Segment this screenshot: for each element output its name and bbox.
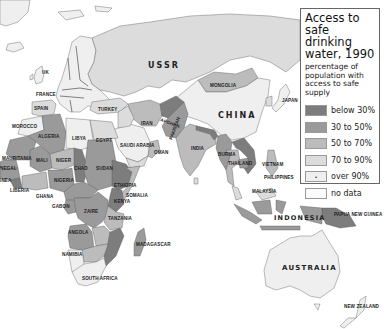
- label-guinea: INEA: [0, 178, 12, 183]
- legend-label: 30 to 50%: [331, 123, 372, 132]
- label-liberia: LIBERIA: [10, 188, 30, 193]
- tasmania: [314, 304, 320, 310]
- label-spain: SPAIN: [34, 106, 49, 111]
- label-france: FRANCE: [36, 92, 56, 97]
- label-india: INDIA: [191, 146, 205, 151]
- label-mali: MALI: [36, 158, 48, 163]
- label-egypt: EGYPT: [96, 138, 112, 143]
- label-gabon: GABON: [52, 204, 70, 209]
- greenland: [0, 0, 30, 26]
- label-australia: AUSTRALIA: [282, 264, 337, 272]
- papua-new-guinea: [322, 208, 356, 228]
- label-oman: OMAN: [154, 150, 169, 155]
- label-papua-new-guinea: PAPUA NEW GUINEA: [334, 212, 383, 217]
- legend: Access to safe drinking water, 1990 perc…: [300, 8, 380, 184]
- legend-title: Access to safe drinking water, 1990: [305, 12, 375, 60]
- label-china: CHINA: [218, 111, 256, 120]
- label-burma: BURMA: [218, 152, 236, 157]
- label-vietnam: VIETNAM: [262, 162, 283, 167]
- sudan: [84, 140, 116, 190]
- liberia: [10, 178, 22, 188]
- legend-item-over-90: • over 90%: [305, 168, 375, 185]
- legend-item-50-70: 50 to 70%: [305, 135, 375, 152]
- label-nigeria: NIGERIA: [54, 178, 74, 183]
- iceland: [6, 42, 24, 52]
- label-algeria: ALGERIA: [38, 134, 60, 139]
- label-ussr: USSR: [148, 61, 180, 70]
- label-south-africa: SOUTH AFRICA: [82, 276, 118, 281]
- label-madagascar: MADAGASCAR: [136, 242, 171, 247]
- arctic-islands: [58, 6, 112, 20]
- legend-swatch: [305, 105, 327, 116]
- legend-swatch: [305, 138, 327, 149]
- legend-subtitle: percentage of population with access to …: [305, 63, 375, 97]
- egypt: [90, 120, 118, 140]
- label-angola: ANGOLA: [68, 230, 89, 235]
- legend-label: no data: [331, 189, 362, 198]
- legend-swatch: [305, 122, 327, 133]
- label-indonesia: INDONESIA: [274, 214, 326, 222]
- label-thailand: THAILAND: [228, 161, 253, 166]
- label-kenya: KENYA: [114, 199, 131, 204]
- label-mongolia: MONGOLIA: [210, 83, 237, 88]
- legend-item-no-data: no data: [305, 185, 375, 202]
- label-somalia: SOMALIA: [126, 193, 148, 198]
- legend-label: over 90%: [331, 172, 369, 181]
- label-iran: IRAN: [141, 121, 153, 126]
- label-morocco: MOROCCO: [12, 124, 38, 129]
- label-namibia: NAMIBIA: [62, 252, 83, 257]
- legend-label: 50 to 70%: [331, 139, 372, 148]
- sri-lanka: [194, 178, 198, 184]
- label-mauritania: MAURITANIA: [2, 156, 32, 161]
- legend-swatch: [305, 188, 327, 199]
- label-philippines: PHILIPPINES: [264, 175, 294, 180]
- label-uk: UK: [42, 70, 49, 75]
- legend-label: 70 to 90%: [331, 156, 372, 165]
- label-ethiopia: ETHIOPIA: [114, 183, 137, 188]
- label-niger: NIGER: [56, 158, 72, 163]
- label-turkey: TURKEY: [98, 107, 118, 112]
- label-tanzania: TANZANIA: [108, 216, 133, 221]
- label-senegal: NEGAL: [0, 166, 17, 171]
- label-zaire: ZAIRE: [84, 209, 98, 214]
- label-malaysia: MALAYSIA: [252, 189, 277, 194]
- legend-item-below-30: below 30%: [305, 102, 375, 119]
- legend-item-30-50: 30 to 50%: [305, 119, 375, 136]
- uk: [30, 66, 44, 84]
- korea: [266, 96, 272, 106]
- legend-item-70-90: 70 to 90%: [305, 152, 375, 169]
- zambia-malawi: [92, 226, 110, 246]
- label-sudan: SUDAN: [96, 166, 113, 171]
- legend-swatch-dot-icon: •: [305, 171, 327, 182]
- label-ghana: GHANA: [36, 194, 54, 199]
- label-saudi-arabia: SAUDI ARABIA: [120, 143, 155, 148]
- label-japan: JAPAN: [282, 98, 298, 103]
- label-libya: LIBYA: [72, 136, 86, 141]
- label-chad: CHAD: [74, 166, 88, 171]
- legend-swatch: [305, 155, 327, 166]
- new-zealand: [340, 296, 366, 328]
- label-new-zealand: NEW ZEALAND: [344, 304, 380, 309]
- legend-label: below 30%: [331, 106, 375, 115]
- angola: [68, 224, 94, 250]
